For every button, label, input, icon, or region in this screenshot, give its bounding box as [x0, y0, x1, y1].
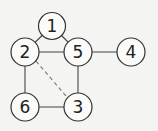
node-label-5: 5 [73, 42, 84, 62]
node-5: 5 [64, 38, 92, 66]
node-4: 4 [117, 38, 145, 66]
node-label-6: 6 [20, 97, 31, 117]
node-6: 6 [11, 93, 39, 121]
node-label-2: 2 [20, 42, 31, 62]
node-label-4: 4 [126, 42, 137, 62]
node-2: 2 [11, 38, 39, 66]
node-1: 1 [39, 13, 66, 40]
node-3: 3 [64, 93, 92, 121]
node-label-3: 3 [73, 97, 84, 117]
node-label-1: 1 [47, 16, 58, 36]
graph-diagram: 1 2 5 4 6 3 [0, 0, 158, 131]
edge-2-3-dashed [36, 61, 66, 96]
